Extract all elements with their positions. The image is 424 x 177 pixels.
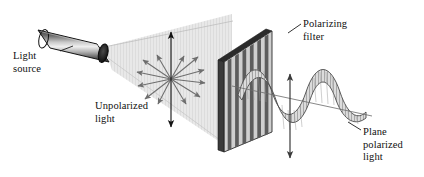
label-unpolarized-light: Unpolarized light [95, 100, 148, 125]
polarization-diagram: Light source Unpolarized light Polarizin… [0, 0, 424, 177]
leader-line-plane-polarized [348, 122, 361, 130]
light-source-lamp [37, 29, 110, 64]
diagram-canvas [0, 0, 424, 177]
label-polarizing-filter: Polarizing filter [303, 18, 347, 43]
light-beam-cone [104, 14, 233, 150]
label-plane-polarized-light: Plane polarized light [363, 126, 403, 164]
label-light-source: Light source [13, 50, 41, 75]
leader-line-polarizing-filter [288, 24, 301, 33]
